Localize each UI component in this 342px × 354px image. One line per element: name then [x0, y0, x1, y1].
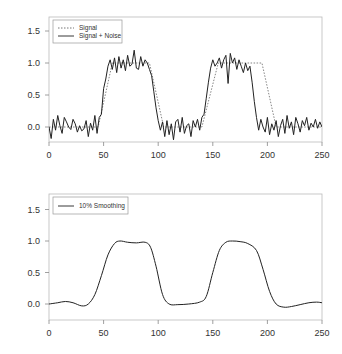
y-tick-label: 1.5	[27, 205, 40, 215]
x-tick-label: 200	[260, 328, 275, 338]
legend-label: Signal + Noise	[79, 32, 121, 40]
legend: SignalSignal + Noise	[53, 20, 122, 43]
x-tick-label: 150	[205, 150, 220, 160]
y-tick-label: 1.0	[27, 58, 40, 68]
x-tick-label: 250	[314, 328, 329, 338]
x-tick-label: 200	[260, 150, 275, 160]
y-tick-label: 1.0	[27, 236, 40, 246]
series-signal-noise	[49, 50, 322, 140]
legend-label: Signal	[79, 24, 98, 32]
y-tick-label: 1.5	[27, 26, 40, 36]
figure: 0501001502002500.00.51.01.5SignalSignal …	[0, 0, 342, 354]
series-10-smoothing	[49, 241, 322, 307]
x-tick-label: 50	[99, 150, 109, 160]
x-tick-label: 100	[151, 328, 166, 338]
y-tick-label: 0.5	[27, 90, 40, 100]
x-tick-label: 100	[151, 150, 166, 160]
series-signal	[49, 63, 322, 127]
x-tick-label: 50	[99, 328, 109, 338]
legend: 10% Smoothing	[53, 197, 128, 214]
y-tick-label: 0.0	[27, 122, 40, 132]
legend-label: 10% Smoothing	[79, 202, 125, 210]
x-tick-label: 150	[205, 328, 220, 338]
plot-smoothing: 0501001502002500.00.51.01.510% Smoothing	[27, 194, 329, 338]
x-tick-label: 0	[46, 150, 51, 160]
y-tick-label: 0.5	[27, 268, 40, 278]
x-tick-label: 250	[314, 150, 329, 160]
plot-signal-noise: 0501001502002500.00.51.01.5SignalSignal …	[27, 17, 329, 160]
y-tick-label: 0.0	[27, 299, 40, 309]
x-tick-label: 0	[46, 328, 51, 338]
